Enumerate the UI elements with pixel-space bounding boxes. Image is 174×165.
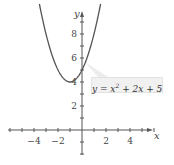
parabola-curve: [39, 4, 100, 82]
equation-part: + 2x + 5: [119, 84, 162, 94]
y-axis-label: y: [73, 8, 80, 19]
y-tick-label: 6: [71, 53, 77, 63]
y-tick-label: 8: [71, 29, 77, 39]
x-axis-label: x: [154, 130, 160, 141]
x-tick-label: 2: [103, 136, 109, 146]
equation-part: y = x: [92, 84, 115, 94]
equation-label: y = x2 + 2x + 5: [91, 77, 163, 93]
y-tick-label: 2: [71, 101, 77, 111]
x-axis-arrow-icon: [147, 128, 153, 132]
x-tick-label: 4: [127, 136, 133, 146]
x-tick-label: −2: [51, 136, 64, 146]
x-tick-label: −4: [27, 136, 41, 146]
y-axis-arrow-icon: [80, 11, 84, 17]
callout-pointer: [85, 62, 108, 77]
